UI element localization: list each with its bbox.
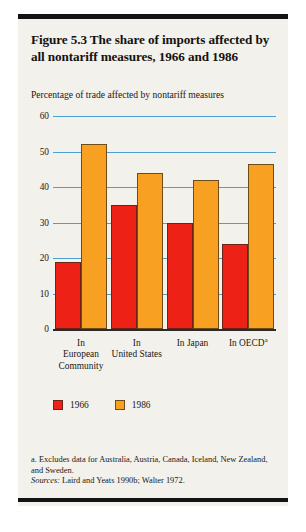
x-label-line: Community <box>41 361 121 372</box>
bottom-rule <box>18 498 288 502</box>
bar-1966-3 <box>222 244 248 329</box>
footnotes: a. Excludes data for Australia, Austria,… <box>31 455 275 487</box>
figure-title: Figure 5.3 The share of imports affected… <box>31 31 277 65</box>
gridline-0 <box>53 329 276 331</box>
y-tick-label-60: 60 <box>9 111 49 121</box>
bar-1986-1 <box>137 173 163 329</box>
y-axis-caption: Percentage of trade affected by nontarif… <box>31 89 281 101</box>
bar-1986-0 <box>81 144 107 329</box>
x-label-line: In OECDa <box>208 338 288 349</box>
bar-1986-3 <box>248 164 274 329</box>
bar-1986-2 <box>193 180 219 329</box>
y-tick-label-0: 0 <box>9 324 49 334</box>
legend-swatch-1986 <box>115 400 125 410</box>
sources-line: Sources: Laird and Yeats 1990b; Walter 1… <box>31 476 275 487</box>
x-axis-label-3: In OECDa <box>208 338 288 349</box>
y-tick-label-20: 20 <box>9 253 49 263</box>
chart-legend: 19661986 <box>53 400 151 410</box>
legend-label-1966: 1966 <box>70 400 89 410</box>
gridline-60 <box>53 116 276 117</box>
footnote-a: a. Excludes data for Australia, Austria,… <box>31 455 275 476</box>
bar-1966-0 <box>55 262 81 329</box>
figure-panel: Figure 5.3 The share of imports affected… <box>18 14 288 506</box>
legend-item-1966: 1966 <box>53 400 89 410</box>
y-tick-label-50: 50 <box>9 147 49 157</box>
sources-label: Sources: <box>31 476 60 485</box>
sources-value: Laird and Yeats 1990b; Walter 1972. <box>60 476 185 485</box>
legend-item-1986: 1986 <box>115 400 151 410</box>
y-tick-label-40: 40 <box>9 182 49 192</box>
legend-swatch-1966 <box>53 400 63 410</box>
legend-label-1986: 1986 <box>132 400 151 410</box>
bar-1966-1 <box>111 205 137 329</box>
bar-1966-2 <box>167 223 193 330</box>
plot-area: 0102030405060 <box>53 116 276 329</box>
top-rule <box>18 14 288 19</box>
x-label-line: United States <box>97 349 177 360</box>
y-tick-label-30: 30 <box>9 218 49 228</box>
bar-chart: 0102030405060 InEuropeanCommunityInUnite… <box>31 110 276 346</box>
y-tick-label-10: 10 <box>9 289 49 299</box>
